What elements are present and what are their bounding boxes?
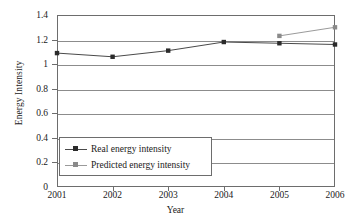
gridline — [58, 114, 334, 115]
y-tick-label: 0.2 — [8, 157, 48, 167]
y-tick-label: 1.2 — [8, 35, 48, 45]
legend-marker-real-icon — [65, 144, 87, 154]
legend-item-real: Real energy intensity — [65, 141, 206, 157]
x-tick-label: 2006 — [305, 190, 351, 200]
x-tick-mark — [224, 187, 225, 191]
legend-item-predicted: Predicted energy intensity — [65, 157, 206, 173]
gridline — [58, 90, 334, 91]
x-tick-label: 2004 — [194, 190, 254, 200]
x-tick-label: 2005 — [249, 190, 309, 200]
y-tick-label: 0.8 — [8, 84, 48, 94]
legend-label-predicted: Predicted energy intensity — [91, 160, 190, 170]
x-axis-title: Year — [0, 205, 351, 215]
x-tick-mark — [168, 187, 169, 191]
gridline — [58, 65, 334, 66]
y-tick-label: 1.4 — [8, 10, 48, 20]
x-tick-label: 2001 — [27, 190, 87, 200]
y-tick-label: 0.6 — [8, 108, 48, 118]
legend-label-real: Real energy intensity — [91, 144, 172, 154]
x-tick-mark — [279, 187, 280, 191]
gridline — [58, 41, 334, 42]
x-tick-label: 2002 — [83, 190, 143, 200]
x-tick-label: 2003 — [138, 190, 198, 200]
y-tick-label: 0.4 — [8, 133, 48, 143]
energy-intensity-line-chart: Energy Intensity 00.20.40.60.811.21.4 20… — [0, 0, 351, 223]
legend-marker-predicted-icon — [65, 160, 87, 170]
chart-legend: Real energy intensity Predicted energy i… — [59, 137, 212, 176]
x-tick-mark — [113, 187, 114, 191]
y-tick-label: 1 — [8, 59, 48, 69]
